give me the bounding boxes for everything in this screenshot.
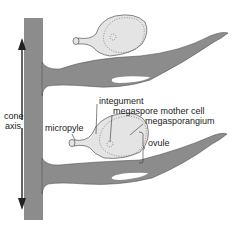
label-cone: cone: [4, 111, 24, 121]
cone-axis: [24, 18, 43, 220]
label-integument: integument: [99, 96, 144, 106]
label-micropyle: micropyle: [45, 123, 84, 133]
upper-ovule: [78, 15, 147, 56]
label-megaspore-mother-cell: megaspore mother cell: [113, 106, 205, 116]
ovule-diagram: cone axis micropyle integument megaspore…: [0, 0, 240, 238]
label-megasporangium: megasporangium: [145, 116, 215, 126]
lower-micropyle: [69, 139, 75, 146]
label-axis: axis: [5, 121, 22, 131]
upper-micropyle: [73, 38, 79, 45]
lower-ovule: [74, 113, 148, 158]
label-ovule: ovule: [148, 138, 170, 148]
